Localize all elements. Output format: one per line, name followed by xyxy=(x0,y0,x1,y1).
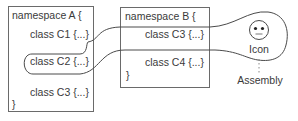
namespace-b-header: namespace B { xyxy=(125,10,196,22)
namespace-assembly-diagram: namespace A { class C1 {...} class C2 {.… xyxy=(0,0,298,121)
namespace-a-class-c3: class C3 {...} xyxy=(30,86,89,98)
namespace-a-header: namespace A { xyxy=(12,9,82,21)
namespace-b-box: namespace B { class C3 {...} class C4 {.… xyxy=(121,8,210,88)
namespace-b-class-c4: class C4 {...} xyxy=(145,56,204,68)
namespace-b-class-c3: class C3 {...} xyxy=(145,28,204,40)
namespace-a-class-c2: class C2 {...} xyxy=(30,55,89,67)
icon-label: Icon xyxy=(249,43,269,55)
smiley-icon xyxy=(250,21,269,40)
assembly-label: Assembly xyxy=(237,74,283,86)
namespace-a-box: namespace A { class C1 {...} class C2 {.… xyxy=(9,7,94,112)
namespace-a-class-c1: class C1 {...} xyxy=(30,28,89,40)
namespace-b-footer: } xyxy=(126,69,130,81)
namespace-a-footer: } xyxy=(12,98,16,110)
